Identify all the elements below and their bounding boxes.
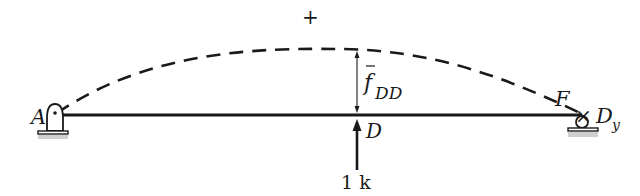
deflected-shape-curve bbox=[57, 49, 578, 113]
svg-text:×: × bbox=[575, 104, 592, 128]
sign-label: + bbox=[302, 5, 319, 29]
svg-text:D: D bbox=[595, 104, 613, 128]
beam-deflection-diagram: + f DD A D F × D y 1 k bbox=[0, 0, 640, 196]
deflection-dimension-arrow bbox=[355, 51, 360, 113]
deflection-label: f DD bbox=[362, 66, 403, 103]
svg-text:y: y bbox=[611, 117, 621, 133]
load-label: 1 k bbox=[341, 171, 371, 193]
point-f-label: F bbox=[554, 87, 571, 111]
point-d-label: D bbox=[365, 119, 382, 143]
unit-load-arrow bbox=[353, 119, 362, 170]
svg-text:DD: DD bbox=[374, 83, 403, 103]
svg-text:f: f bbox=[362, 70, 376, 95]
point-a-label: A bbox=[29, 105, 46, 129]
